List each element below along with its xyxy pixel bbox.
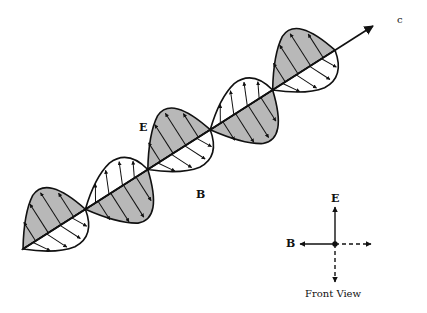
front-view-caption: Front View — [305, 288, 361, 299]
front-view-b-label: B — [286, 237, 295, 250]
propagation-label: c — [397, 14, 403, 25]
front-view-diagram — [300, 207, 371, 282]
propagation-axis — [23, 26, 373, 249]
front-view-origin — [333, 242, 337, 246]
b-field-label: B — [196, 188, 205, 201]
e-field-label: E — [139, 121, 147, 134]
front-view-e-label: E — [331, 192, 339, 205]
wave-group — [1, 0, 396, 284]
em-wave-diagram — [0, 0, 427, 313]
